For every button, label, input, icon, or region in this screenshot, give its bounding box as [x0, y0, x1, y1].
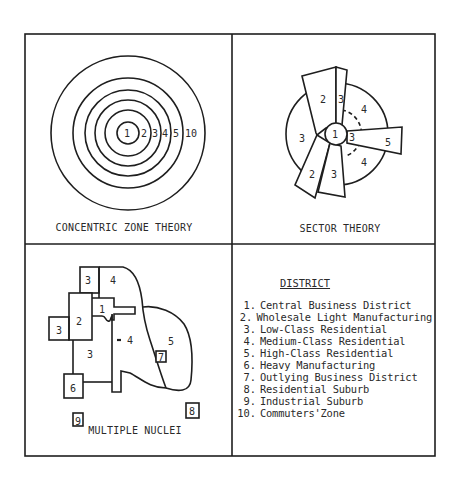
legend-label: Heavy Manufacturing: [260, 359, 375, 371]
legend-title: DISTRICT: [280, 276, 432, 290]
legend-item: 7.Outlying Business District: [236, 371, 432, 383]
sector-label-2-lower: 2: [309, 169, 315, 180]
legend-num: 3.: [236, 323, 260, 335]
legend-label: Low-Class Residential: [260, 323, 387, 335]
nuclei-label-4-top: 4: [110, 275, 116, 286]
legend-item: 3.Low-Class Residential: [236, 323, 432, 335]
legend-item: 10.Commuters'Zone: [236, 407, 432, 419]
legend-label: High-Class Residential: [260, 347, 393, 359]
legend-item: 8.Residential Suburb: [236, 383, 432, 395]
legend-num: 6.: [236, 359, 260, 371]
nuclei-label-7: 7: [158, 352, 164, 363]
sector-label-1: 1: [332, 129, 338, 140]
nuclei-label-3-center: 3: [87, 349, 93, 360]
legend-label: Industrial Suburb: [260, 395, 363, 407]
legend-label: Commuters'Zone: [260, 407, 345, 419]
legend-label: Wholesale Light Manufacturing: [256, 311, 432, 323]
legend-num: 7.: [236, 371, 260, 383]
nuclei-caption: MULTIPLE NUCLEI: [88, 425, 181, 436]
legend-num: 5.: [236, 347, 260, 359]
zone-label-2: 2: [141, 128, 147, 139]
sector-label-3-inner: 3: [349, 132, 355, 143]
nuclei-label-9: 9: [75, 416, 81, 427]
sector-caption: SECTOR THEORY: [300, 223, 381, 234]
legend-num: 10.: [236, 407, 260, 419]
sector-label-3-strip: 3: [338, 94, 344, 105]
legend-item: 5.High-Class Residential: [236, 347, 432, 359]
legend-item: 1.Central Business District: [236, 299, 432, 311]
nuclei-label-2: 2: [76, 316, 82, 327]
district-legend: DISTRICT 1.Central Business District 2.W…: [236, 276, 432, 419]
sector-theory-panel: 1 2 3 4 3 3 5 4 2 3 SECTOR THEORY: [286, 67, 402, 234]
nuclei-label-8: 8: [189, 406, 195, 417]
nuclei-label-3-left: 3: [56, 325, 62, 336]
legend-label: Outlying Business District: [260, 371, 417, 383]
multiple-nuclei-panel: 3 4 1 2 3 3 4 5 7 6 9 8 MULTIPLE NUCLEI: [49, 267, 199, 436]
nuclei-label-6: 6: [70, 383, 76, 394]
legend-num: 1.: [236, 299, 260, 311]
legend-num: 4.: [236, 335, 260, 347]
nuclei-label-5: 5: [168, 336, 174, 347]
zone-label-4: 4: [162, 128, 168, 139]
nuclei-label-3-top: 3: [85, 275, 91, 286]
legend-item: 2.Wholesale Light Manufacturing: [236, 311, 432, 323]
legend-num: 2.: [236, 311, 256, 323]
nuclei-label-1: 1: [99, 304, 105, 315]
sector-label-4-lower: 4: [361, 157, 367, 168]
zone-label-5: 5: [173, 128, 179, 139]
legend-label: Medium-Class Residential: [260, 335, 405, 347]
sector-label-3-left: 3: [299, 133, 305, 144]
sector-label-4-upper: 4: [361, 104, 367, 115]
concentric-zone-panel: 1 2 3 4 5 10 CONCENTRIC ZONE THEORY: [51, 56, 205, 233]
legend-item: 6.Heavy Manufacturing: [236, 359, 432, 371]
concentric-caption: CONCENTRIC ZONE THEORY: [56, 222, 193, 233]
legend-label: Central Business District: [260, 299, 411, 311]
sector-label-3-lower: 3: [331, 169, 337, 180]
nuclei-region-5-outline: [143, 307, 192, 391]
zone-label-1: 1: [124, 128, 130, 139]
legend-item: 4.Medium-Class Residential: [236, 335, 432, 347]
legend-num: 9.: [236, 395, 260, 407]
zone-label-10: 10: [185, 128, 197, 139]
nuclei-label-4-inner: 4: [127, 335, 133, 346]
legend-item: 9.Industrial Suburb: [236, 395, 432, 407]
zone-label-3: 3: [152, 128, 158, 139]
sector-label-2-upper: 2: [320, 94, 326, 105]
legend-label: Residential Suburb: [260, 383, 369, 395]
sector-label-5: 5: [385, 137, 391, 148]
legend-num: 8.: [236, 383, 260, 395]
